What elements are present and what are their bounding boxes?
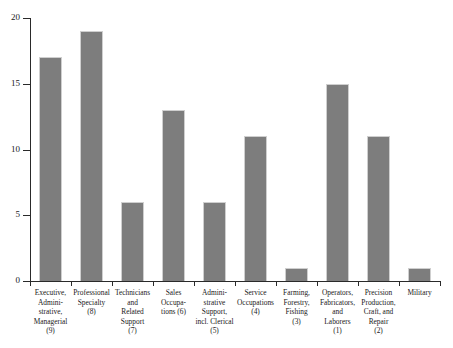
bar — [326, 84, 350, 281]
bar — [408, 268, 432, 281]
x-axis-category-label: Military — [399, 288, 440, 298]
y-axis-tick-label: 0 — [16, 274, 21, 286]
y-axis-tick-label: 10 — [11, 143, 20, 155]
bar — [80, 31, 104, 281]
x-axis-category-label: Farming, Forestry, Fishing (3) — [276, 288, 317, 326]
y-axis-tick-label: 5 — [16, 208, 21, 220]
bar — [285, 268, 309, 281]
x-axis-tick — [112, 281, 113, 286]
x-axis-tick — [71, 281, 72, 286]
x-axis-category-label: Precision Production, Craft, and Repair … — [358, 288, 399, 336]
x-axis-tick — [194, 281, 195, 286]
x-axis-tick — [440, 281, 441, 286]
x-axis-tick — [317, 281, 318, 286]
x-axis-category-label: Executive, Admini- strative, Managerial … — [30, 288, 71, 336]
x-axis-category-label: Service Occupations (4) — [235, 288, 276, 317]
y-axis-tick-label: 15 — [11, 77, 20, 89]
x-axis-category-label: Operators, Fabricators, and Laborers (1) — [317, 288, 358, 336]
bar — [203, 202, 227, 281]
bar — [367, 136, 391, 281]
x-axis-category-label: Sales Occupa- tions (6) — [153, 288, 194, 317]
bar — [39, 57, 63, 281]
bar — [162, 110, 186, 281]
x-axis-labels: Executive, Admini- strative, Managerial … — [30, 288, 441, 344]
x-axis-category-label: Admini- strative Support, incl. Clerical… — [194, 288, 235, 336]
bar — [121, 202, 145, 281]
x-axis-tick — [399, 281, 400, 286]
x-axis-tick — [358, 281, 359, 286]
x-axis-tick — [30, 281, 31, 286]
plot-area — [30, 18, 440, 281]
x-axis-category-label: Technicians and Related Support (7) — [112, 288, 153, 336]
bar — [244, 136, 268, 281]
y-axis-tick-label: 20 — [11, 11, 20, 23]
x-axis-tick — [153, 281, 154, 286]
x-axis-tick — [276, 281, 277, 286]
bar-chart: 05101520 Executive, Admini- strative, Ma… — [0, 0, 453, 348]
x-axis-tick — [235, 281, 236, 286]
x-axis-category-label: Professional Specialty (8) — [71, 288, 112, 317]
